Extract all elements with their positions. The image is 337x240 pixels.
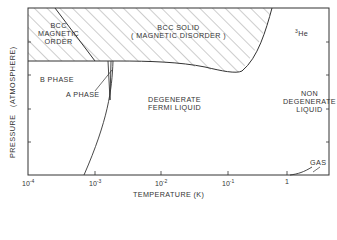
region-label-b-phase: B PHASE: [40, 76, 74, 84]
region-label-non-degenerate-liquid: NON DEGENERATE LIQUID: [283, 90, 336, 114]
gas-pointer: [313, 167, 320, 172]
x-tick-label: 10-4: [22, 178, 34, 187]
y-axis-label-unit: (ATMOSPHERE): [8, 46, 17, 107]
x-tick-label: 10-3: [89, 178, 101, 187]
x-axis-label: TEMPERATURE (K): [133, 191, 204, 199]
region-label-a-phase: A PHASE: [66, 91, 100, 99]
element-symbol: He: [298, 29, 308, 38]
gas-curve: [290, 167, 312, 175]
label-line: ( MAGNETIC DISORDER ): [131, 32, 226, 40]
substance-label: 3He: [295, 27, 308, 38]
label-line: ORDER: [38, 38, 79, 46]
y-axis-label: PRESSURE (ATMOSPHERE): [8, 46, 17, 158]
region-label-gas: GAS: [310, 159, 326, 167]
x-tick-label: 10-1: [222, 178, 234, 187]
x-tick-label: 1: [285, 178, 289, 185]
region-label-degenerate-fermi-liquid: DEGENERATE FERMI LIQUID: [148, 96, 201, 112]
x-tick-label: 10-2: [155, 178, 167, 187]
y-axis-label-line: PRESSURE: [8, 114, 17, 158]
x-ticks: [95, 171, 287, 175]
region-label-bcc-solid: BCC SOLID ( MAGNETIC DISORDER ): [131, 24, 226, 40]
label-line: LIQUID: [283, 106, 336, 114]
label-line: FERMI LIQUID: [148, 104, 201, 112]
region-label-bcc-magnetic-order: BCC MAGNETIC ORDER: [38, 22, 79, 46]
